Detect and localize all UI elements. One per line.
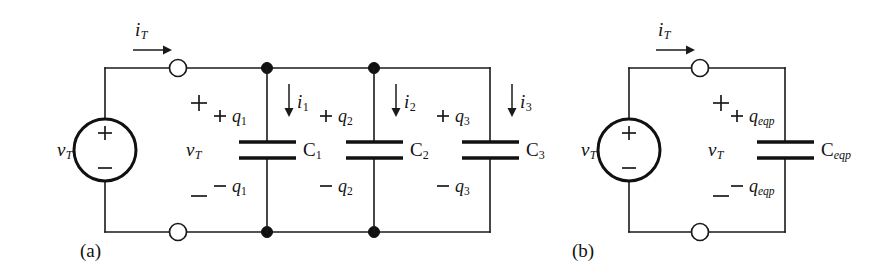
current-label-it-a: iT — [135, 20, 147, 41]
port-plus-symbol-a — [191, 95, 207, 111]
capacitor-label-eqp: Ceqp — [821, 140, 851, 161]
charge-label-bottom-2: q2 — [338, 177, 353, 198]
circuit-graphics — [0, 0, 895, 277]
charge-label-top-eqp: qeqp — [749, 107, 775, 128]
current-arrow-i2 — [392, 84, 401, 117]
current-arrow-i3 — [508, 84, 517, 117]
circuit-figure: vT iT vT q1 q1 i1 C1 q2 q2 i2 C2 q3 q3 i… — [0, 0, 895, 277]
charge-plus-symbol-2 — [320, 110, 332, 122]
current-label-i2: i2 — [404, 92, 416, 113]
charge-label-top-1: q1 — [232, 107, 247, 128]
charge-label-top-2: q2 — [338, 107, 353, 128]
charge-plus-symbol-3 — [437, 110, 449, 122]
panel-b-graphics — [598, 46, 814, 241]
terminal-bottom-b — [692, 224, 709, 241]
source-label-b: vT — [581, 140, 597, 161]
charge-plus-symbol-1 — [214, 110, 226, 122]
port-voltage-label-a: vT — [186, 140, 202, 161]
current-arrow-it-b — [656, 46, 695, 55]
charge-label-bottom-3: q3 — [455, 177, 470, 198]
current-arrow-i1 — [285, 84, 294, 117]
charge-label-bottom-1: q1 — [232, 177, 247, 198]
panel-a-graphics — [74, 46, 519, 241]
terminal-bottom-a — [170, 224, 187, 241]
capacitor-label-1: C1 — [303, 140, 322, 161]
capacitor-label-3: C3 — [526, 140, 545, 161]
port-voltage-label-b: vT — [708, 140, 724, 161]
port-plus-symbol-b — [713, 95, 729, 111]
terminal-top-b — [692, 60, 709, 77]
current-label-i1: i1 — [297, 92, 309, 113]
current-label-i3: i3 — [520, 92, 532, 113]
current-arrow-it-a — [133, 46, 172, 55]
panel-label-b: (b) — [572, 241, 594, 260]
charge-label-bottom-eqp: qeqp — [749, 177, 775, 198]
capacitor-label-2: C2 — [410, 140, 429, 161]
source-label-a: vT — [57, 140, 73, 161]
panel-label-a: (a) — [80, 241, 101, 260]
charge-label-top-3: q3 — [455, 107, 470, 128]
charge-plus-symbol-eqp — [731, 110, 743, 122]
terminal-top-a — [170, 60, 187, 77]
current-label-it-b: iT — [658, 20, 670, 41]
